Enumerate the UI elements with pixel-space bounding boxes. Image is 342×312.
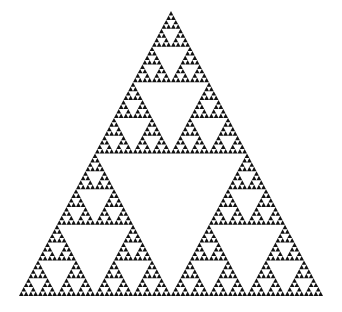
- page-background: [0, 0, 342, 312]
- sierpinski-triangle-figure: [0, 0, 342, 312]
